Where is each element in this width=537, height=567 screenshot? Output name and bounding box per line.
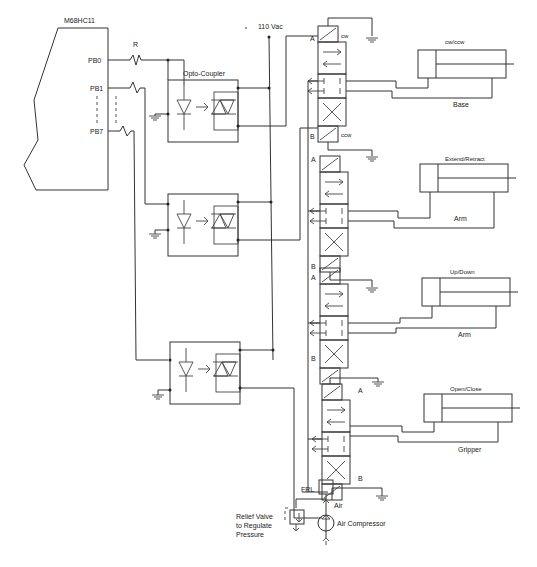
air-compressor-assembly: FRL Air Air Compressor Relief Valve to R… [236, 480, 386, 545]
relief-valve-label-line1: Relief Valve [236, 513, 273, 520]
valve-2-a-label: A [311, 156, 316, 163]
directional-valve-4: A B [312, 384, 388, 500]
opto-coupler-3 [152, 342, 240, 404]
valve-1-a-label: A [310, 35, 315, 42]
ac-power-bus: 110 Vac [237, 23, 284, 360]
frl-label: FRL [301, 486, 314, 493]
directional-valve-1: A cw B ccw [308, 18, 378, 161]
relief-valve-label-line2: to Regulate [236, 522, 272, 530]
cylinder-arm-extend-function: Extend/Retract [445, 156, 485, 162]
relief-valve-label-line3: Pressure [236, 531, 264, 538]
cylinder-gripper-name: Gripper [458, 446, 482, 454]
microcontroller-m68hc11: M68HC11 PB0 PB1 PB7 [24, 17, 116, 190]
compressor-label: Air Compressor [337, 520, 386, 528]
power-label: 110 Vac [258, 23, 283, 30]
cylinder-arm-updown-name: Arm [458, 331, 471, 338]
cylinder-arm-extend-name: Arm [454, 215, 467, 222]
resistor-network: R [108, 41, 168, 360]
cylinder-base-name: Base [453, 101, 469, 108]
cylinder-base-function: cw/ccw [445, 39, 465, 45]
cylinder-gripper: Open/Close Gripper [350, 386, 520, 454]
air-supply-line [302, 81, 328, 492]
valve-4-b-label: B [358, 475, 363, 482]
valve-1-b-label: B [310, 133, 315, 140]
valve-3-a-label: A [311, 274, 316, 281]
opto-coupler-1: Opto-Coupler [149, 59, 238, 143]
pneumatic-robot-control-diagram: M68HC11 PB0 PB1 PB7 R Opto-Coupler [0, 0, 537, 567]
cylinder-base: cw/ccw Base [346, 39, 514, 108]
relief-valve-icon [290, 510, 304, 524]
pin-pb1-label: PB1 [90, 85, 103, 92]
pin-pb0-label: PB0 [88, 57, 101, 64]
cylinder-gripper-function: Open/Close [450, 386, 482, 392]
valve-2-b-label: B [311, 263, 316, 270]
cylinder-arm-updown: Up/Down Arm [348, 269, 518, 338]
air-label: Air [334, 502, 343, 509]
resistor-label: R [133, 41, 138, 48]
valve-3-b-label: B [311, 355, 316, 362]
opto-coupler-label: Opto-Coupler [183, 70, 226, 78]
valve-4-a-label: A [358, 387, 363, 394]
cylinder-arm-updown-function: Up/Down [450, 269, 475, 275]
pin-pb7-label: PB7 [90, 128, 103, 135]
cylinder-arm-extend: Extend/Retract Arm [348, 156, 516, 228]
opto-coupler-2 [149, 194, 238, 256]
directional-valve-3: A B [310, 268, 384, 386]
solenoid-wiring [237, 36, 323, 518]
controller-label: M68HC11 [64, 17, 95, 24]
valve-1-cw-label: cw [341, 33, 349, 39]
valve-1-ccw-label: ccw [341, 132, 352, 138]
